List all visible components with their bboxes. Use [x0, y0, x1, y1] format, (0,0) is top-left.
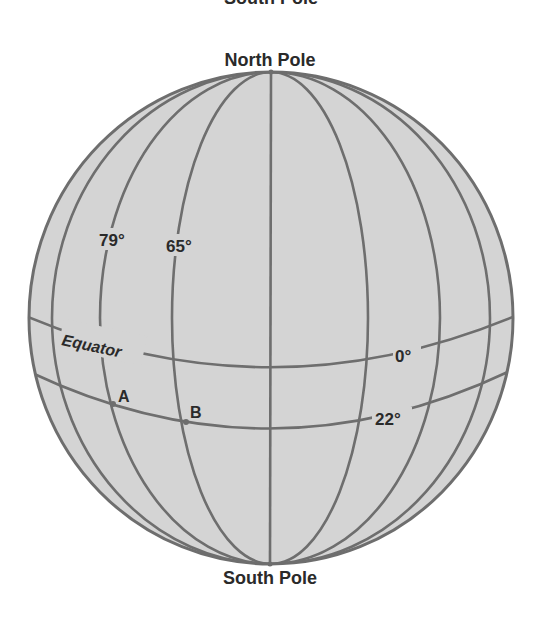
parallel-22-label: 22°	[375, 410, 401, 429]
north-pole-point	[269, 70, 274, 75]
meridian-line-center	[270, 72, 271, 564]
top-clipped-label: South Pole	[224, 0, 318, 8]
meridian-79-label: 79°	[99, 231, 125, 250]
point-a-label: A	[118, 388, 130, 405]
point-b-marker	[183, 419, 189, 425]
south-pole-label: South Pole	[223, 568, 317, 588]
south-pole-point	[268, 562, 273, 567]
north-pole-label: North Pole	[224, 50, 315, 70]
parallel-0-label: 0°	[395, 347, 411, 366]
point-a-marker	[110, 401, 116, 407]
globe-diagram: South Pole North Pole South Pole 79° 65	[0, 0, 541, 618]
meridian-65-label: 65°	[166, 237, 192, 256]
point-b-label: B	[190, 404, 202, 421]
